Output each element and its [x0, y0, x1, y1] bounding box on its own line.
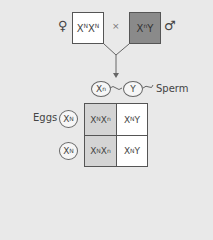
punnett-square: XNXn XNY XNXn XNY	[84, 103, 148, 167]
egg-gamete-2: XN	[59, 142, 78, 160]
sperm-gamete-xn: Xn	[91, 81, 111, 97]
punnett-cell-r1c1: XNXn	[84, 103, 117, 136]
punnett-cell-r1c2: XNY	[116, 103, 148, 136]
sperm-label: Sperm	[156, 83, 189, 94]
egg-gamete-1: XN	[59, 110, 78, 128]
punnett-cell-r2c1: XNXn	[84, 135, 117, 167]
eggs-label: Eggs	[33, 112, 57, 123]
sperm-gamete-y: Y	[123, 81, 143, 97]
punnett-cell-r2c2: XNY	[116, 135, 148, 167]
